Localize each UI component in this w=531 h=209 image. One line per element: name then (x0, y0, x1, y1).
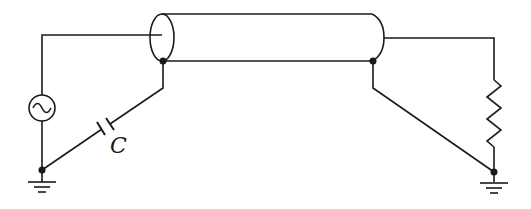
resistor-icon (487, 80, 501, 147)
coax-left-end (150, 14, 174, 61)
ground-icon (28, 170, 56, 192)
coaxial-cable (150, 14, 384, 61)
junction-dot (160, 58, 167, 65)
circuit-diagram: C (0, 0, 531, 209)
source-circuit: C (28, 35, 167, 192)
load-circuit (370, 38, 509, 193)
capacitor-label: C (110, 133, 127, 158)
ground-icon (480, 172, 508, 193)
coax-right-end (372, 14, 384, 61)
junction-dot (370, 58, 377, 65)
ac-source-icon (29, 95, 55, 121)
